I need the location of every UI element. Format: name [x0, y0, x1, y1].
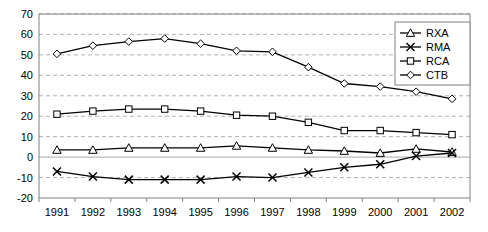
square-marker	[269, 113, 275, 119]
y-tick-label: 30	[21, 90, 33, 102]
square-marker	[305, 119, 311, 125]
x-tick-label: 2002	[440, 206, 464, 218]
y-tick-label: 0	[27, 151, 33, 163]
x-tick-label: 2000	[368, 206, 392, 218]
x-axis-tick-labels: 1991199219931994199519961997199819992000…	[45, 206, 465, 218]
square-marker	[413, 129, 419, 135]
x-tick-label: 1995	[188, 206, 212, 218]
legend-label: RCA	[426, 55, 450, 67]
x-tick-label: 1994	[152, 206, 176, 218]
chart-legend: RXARMARCACTB	[395, 22, 470, 85]
x-tick-label: 1992	[81, 206, 105, 218]
x-tick-label: 1998	[296, 206, 320, 218]
chart-canvas: -20-10010203040506070 199119921993199419…	[0, 0, 488, 232]
y-tick-label: -20	[17, 192, 33, 204]
square-marker	[90, 108, 96, 114]
square-marker	[126, 106, 132, 112]
x-tick-label: 1999	[332, 206, 356, 218]
square-marker	[197, 108, 203, 114]
legend-label: RXA	[426, 27, 449, 39]
y-tick-label: 10	[21, 131, 33, 143]
x-tick-label: 1993	[117, 206, 141, 218]
square-marker	[162, 106, 168, 112]
line-chart: -20-10010203040506070 199119921993199419…	[0, 0, 488, 232]
y-tick-label: 70	[21, 8, 33, 20]
legend-label: RMA	[426, 41, 451, 53]
y-tick-label: 40	[21, 69, 33, 81]
y-tick-label: -10	[17, 172, 33, 184]
x-tick-label: 1991	[45, 206, 69, 218]
y-tick-label: 50	[21, 49, 33, 61]
y-tick-label: 60	[21, 28, 33, 40]
square-marker	[449, 131, 455, 137]
square-marker	[54, 111, 60, 117]
x-tick-label: 1996	[224, 206, 248, 218]
x-tick-label: 2001	[404, 206, 428, 218]
square-marker	[407, 58, 413, 64]
y-tick-label: 20	[21, 110, 33, 122]
legend-label: CTB	[426, 69, 448, 81]
y-axis-tick-labels: -20-10010203040506070	[17, 8, 33, 204]
square-marker	[233, 112, 239, 118]
x-axis-ticks	[39, 198, 470, 202]
x-tick-label: 1997	[260, 206, 284, 218]
square-marker	[377, 127, 383, 133]
square-marker	[341, 127, 347, 133]
